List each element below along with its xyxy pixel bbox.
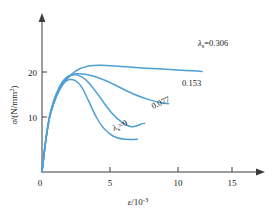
axes-group xyxy=(39,13,265,175)
y-ticks-group xyxy=(42,72,47,117)
y-tick-labels-group: 20 10 xyxy=(28,68,38,123)
y-axis-title-rest: /(N/mm xyxy=(9,92,19,121)
y-tick-label-10: 10 xyxy=(28,113,38,123)
svg-text:ε/10-3: ε/10-3 xyxy=(128,196,148,208)
x-tick-label-10: 10 xyxy=(174,178,184,188)
y-axis-arrowhead xyxy=(39,13,46,22)
series-label-0-153: 0.153 xyxy=(182,78,201,88)
series-label-0-077: 0.077 xyxy=(150,94,172,111)
x-axis-title-exponent: -3 xyxy=(143,196,148,203)
y-tick-label-20: 20 xyxy=(28,68,38,78)
y-axis-title-close: ) xyxy=(9,85,19,88)
x-tick-label-5: 5 xyxy=(108,178,113,188)
chart-canvas: 0 5 10 15 20 10 ε/10-3 σ/(N/mm2) xyxy=(0,0,274,212)
series-label-lambda-0-306: λs=0.306 xyxy=(197,38,228,49)
svg-text:σ/(N/mm2): σ/(N/mm2) xyxy=(8,85,20,124)
curve-0-077 xyxy=(42,75,145,172)
label-1-rest: =0.306 xyxy=(204,38,228,48)
x-axis-arrowhead xyxy=(256,169,265,176)
series-label-lambda-0: λs=0 xyxy=(110,117,129,134)
x-tick-label-0: 0 xyxy=(38,178,43,188)
x-tick-label-15: 15 xyxy=(228,178,238,188)
x-ticks-group xyxy=(42,167,232,172)
svg-text:λs=0: λs=0 xyxy=(110,117,129,134)
x-tick-labels-group: 0 5 10 15 xyxy=(38,178,237,188)
x-axis-title-rest: /10 xyxy=(131,197,143,207)
label-3-text: 0.077 xyxy=(150,94,172,111)
stress-strain-chart-figure: 0 5 10 15 20 10 ε/10-3 σ/(N/mm2) xyxy=(0,0,274,212)
y-axis-title: σ/(N/mm2) xyxy=(8,85,20,124)
svg-text:λs=0.306: λs=0.306 xyxy=(197,38,228,49)
x-axis-title: ε/10-3 xyxy=(128,196,148,208)
label-2-text: 0.153 xyxy=(182,78,201,88)
